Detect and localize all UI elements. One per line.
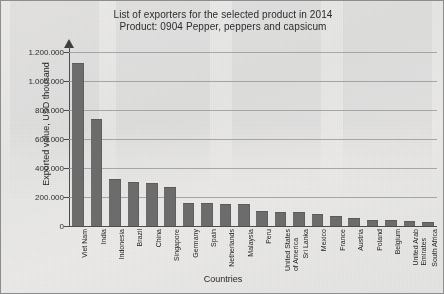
bar-slot[interactable] xyxy=(201,52,212,226)
y-tick-label: 1.200.000 xyxy=(6,48,64,57)
bar[interactable] xyxy=(164,187,175,226)
bar-slot[interactable] xyxy=(238,52,249,226)
bar-slot[interactable] xyxy=(109,52,120,226)
bar-slot[interactable] xyxy=(164,52,175,226)
bar[interactable] xyxy=(128,182,139,227)
bar-slot[interactable] xyxy=(128,52,139,226)
x-category-label: Malaysia xyxy=(247,229,255,257)
x-category-label: Spain xyxy=(210,229,218,247)
x-category-label: Austria xyxy=(357,229,365,251)
x-category-label: United ArabEmirates xyxy=(412,229,427,266)
x-category-label: Indonesia xyxy=(118,229,126,259)
bar[interactable] xyxy=(367,220,378,227)
bar[interactable] xyxy=(238,204,249,226)
bar-slot[interactable] xyxy=(256,52,267,226)
bar[interactable] xyxy=(256,211,267,226)
y-axis-title: Exported value, USD thousand xyxy=(41,39,51,209)
x-category-label: Netherlands xyxy=(228,229,236,267)
bar-slot[interactable] xyxy=(312,52,323,226)
y-tick-label: 0 xyxy=(6,222,64,231)
bar-slot[interactable] xyxy=(220,52,231,226)
chart-page: List of exporters for the selected produ… xyxy=(0,0,444,294)
x-category-label: United Statesof America xyxy=(284,229,299,271)
bar-slot[interactable] xyxy=(275,52,286,226)
x-category-label: South Africa xyxy=(431,229,439,267)
bar-slot[interactable] xyxy=(367,52,378,226)
bars-group xyxy=(69,52,437,226)
bar-slot[interactable] xyxy=(422,52,433,226)
bar[interactable] xyxy=(109,179,120,226)
x-category-label: Peru xyxy=(265,229,273,244)
x-category-label: Sri Lanka xyxy=(302,229,310,259)
x-category-label: Brazil xyxy=(136,229,144,247)
bar[interactable] xyxy=(293,212,304,226)
x-category-label: Belgium xyxy=(394,229,402,254)
bar[interactable] xyxy=(348,218,359,226)
bar[interactable] xyxy=(404,221,415,226)
x-category-label: Viet Nam xyxy=(81,229,89,258)
x-category-label: Singapore xyxy=(173,229,181,261)
bar[interactable] xyxy=(385,220,396,226)
x-category-label: China xyxy=(155,229,163,247)
bar-slot[interactable] xyxy=(72,52,83,226)
bar-slot[interactable] xyxy=(348,52,359,226)
x-category-label: Poland xyxy=(376,229,384,251)
bar-slot[interactable] xyxy=(385,52,396,226)
bar[interactable] xyxy=(72,63,83,226)
bar[interactable] xyxy=(220,204,231,226)
x-category-label: Germany xyxy=(192,229,200,258)
bar[interactable] xyxy=(330,216,341,226)
bar[interactable] xyxy=(91,119,102,226)
x-category-label: France xyxy=(339,229,347,251)
bar[interactable] xyxy=(146,183,157,226)
bar-slot[interactable] xyxy=(330,52,341,226)
bar[interactable] xyxy=(422,222,433,226)
bar[interactable] xyxy=(183,203,194,226)
y-axis-title-wrap: Exported value, USD thousand xyxy=(9,59,25,219)
x-category-label: India xyxy=(100,229,108,244)
x-category-label: Mexico xyxy=(320,229,328,251)
bar-slot[interactable] xyxy=(146,52,157,226)
bar-slot[interactable] xyxy=(404,52,415,226)
bar-slot[interactable] xyxy=(183,52,194,226)
bar[interactable] xyxy=(275,212,286,226)
x-axis-title: Countries xyxy=(1,274,444,284)
bar-slot[interactable] xyxy=(293,52,304,226)
bar[interactable] xyxy=(201,203,212,226)
bar[interactable] xyxy=(312,214,323,226)
bar-slot[interactable] xyxy=(91,52,102,226)
